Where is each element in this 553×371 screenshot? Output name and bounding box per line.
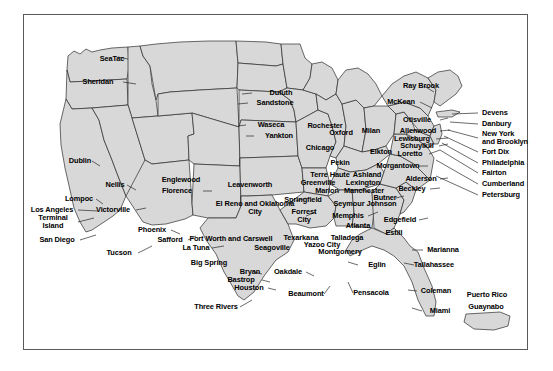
map-label-petersburg: Petersburg xyxy=(482,191,520,199)
map-label-safford: Safford xyxy=(157,236,182,244)
map-label-nellis: Nellis xyxy=(105,181,124,189)
map-label-talladega: Talladega xyxy=(331,234,364,242)
map-label-beckley: Beckley xyxy=(398,185,425,193)
map-label-seatac: SeaTac xyxy=(100,55,125,63)
map-label-tallahassee: Tallahassee xyxy=(414,261,454,269)
map-label-fort-dix: Fort Dix xyxy=(482,148,509,156)
map-label-atlanta: Atlanta xyxy=(346,222,370,230)
map-label-danbury: Danbury xyxy=(482,120,511,128)
map-label-forrest-city: Forrest City xyxy=(292,208,317,225)
map-label-leavenworth: Leavenworth xyxy=(228,181,273,189)
map-label-victorville: Victorville xyxy=(96,206,130,214)
map-label-devens: Devens xyxy=(482,109,508,117)
map-label-springfield: Springfield xyxy=(284,196,322,204)
map-label-pensacola: Pensacola xyxy=(353,289,389,297)
map-label-montgomery: Montgomery xyxy=(318,248,361,256)
map-label-guaynabo: Guaynabo xyxy=(468,303,503,311)
map-label-pekin: Pekin xyxy=(330,159,349,167)
map-label-oxford: Oxford xyxy=(329,129,353,137)
map-label-oakdale: Oakdale xyxy=(274,268,302,276)
map-label-puerto-rico: Puerto Rico xyxy=(467,291,507,299)
map-label-philadelphia: Philadelphia xyxy=(482,159,524,167)
map-label-tucson: Tucson xyxy=(106,249,131,257)
map-label-miami: Miami xyxy=(430,307,450,315)
map-label-estill: Estill xyxy=(385,229,402,237)
map-label-fairton: Fairton xyxy=(482,169,506,177)
map-geography xyxy=(0,0,553,371)
map-label-sandstone: Sandstone xyxy=(257,99,294,107)
map-label-houston: Houston xyxy=(234,284,263,292)
map-label-englewood: Englewood xyxy=(162,176,201,184)
map-label-chicago: Chicago xyxy=(306,144,334,152)
map-label-eglin: Eglin xyxy=(368,261,386,269)
map-label-waseca: Waseca xyxy=(258,121,285,129)
map-label-loretto: Loretto xyxy=(398,150,423,158)
map-label-otisville: Otisville xyxy=(403,116,431,124)
map-label-lompoc: Lompoc xyxy=(65,195,93,203)
map-label-new-york-brooklyn: New York and Brooklyn xyxy=(482,130,528,147)
map-label-el-reno-oklahoma-city: El Reno and Oklahoma City xyxy=(216,200,295,217)
map-label-marianna: Marianna xyxy=(427,246,459,254)
map-label-ray-brook: Ray Brook xyxy=(403,82,439,90)
map-label-big-spring: Big Spring xyxy=(191,259,227,267)
map-label-terminal-island: Terminal Island xyxy=(38,214,67,231)
map-label-memphis: Memphis xyxy=(332,212,363,220)
map-label-san-diego: San Diego xyxy=(39,236,74,244)
map-label-coleman: Coleman xyxy=(421,287,452,295)
map-label-seagoville: Seagoville xyxy=(254,244,290,252)
map-label-butner: Butner xyxy=(373,194,396,202)
map-label-duluth: Duluth xyxy=(270,89,293,97)
map-label-three-rivers: Three Rivers xyxy=(194,303,238,311)
map-label-beaumont: Beaumont xyxy=(288,290,323,298)
map-label-florence: Florence xyxy=(162,187,192,195)
map-label-cumberland: Cumberland xyxy=(482,180,524,188)
map-label-alderson: Alderson xyxy=(405,175,436,183)
map-label-milan: Milan xyxy=(362,127,380,135)
map-label-morgantown: Morgantown xyxy=(377,162,420,170)
map-label-la-tuna: La Tuna xyxy=(182,244,209,252)
map-label-dublin: Dublin xyxy=(69,157,91,165)
map-label-allenwood: Allenwood xyxy=(400,127,436,135)
us-facility-map: SeaTacSheridanDublinNellisLompocLos Ange… xyxy=(0,0,553,371)
map-label-edgefield: Edgefield xyxy=(384,216,416,224)
map-label-yankton: Yankton xyxy=(265,132,293,140)
map-label-elkton: Elkton xyxy=(370,148,392,156)
map-label-mckean: McKean xyxy=(387,98,415,106)
map-label-phoenix: Phoenix xyxy=(138,226,166,234)
map-label-sheridan: Sheridan xyxy=(83,78,114,86)
